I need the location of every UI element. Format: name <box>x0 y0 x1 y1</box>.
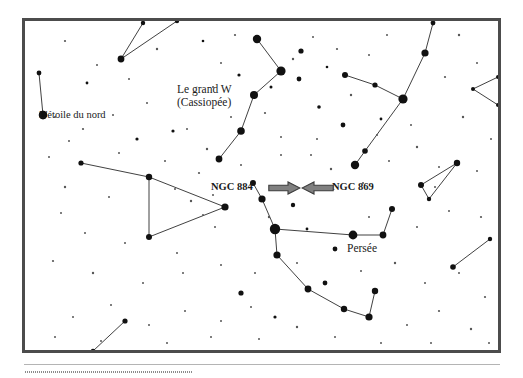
background-star <box>110 304 112 306</box>
background-star <box>264 112 266 114</box>
constellation-line <box>308 289 344 309</box>
background-star <box>186 128 188 130</box>
constellation-star <box>342 72 348 78</box>
background-star <box>210 336 212 338</box>
background-star <box>416 146 418 148</box>
background-star <box>341 123 346 128</box>
background-star <box>60 212 62 214</box>
constellation-star <box>431 21 436 25</box>
background-star <box>206 148 208 150</box>
background-star <box>54 336 56 338</box>
background-star <box>380 118 383 121</box>
background-star <box>458 34 460 36</box>
sky-map <box>25 21 498 350</box>
label-ngc884: NGC 884 <box>211 181 253 193</box>
background-star <box>268 216 270 218</box>
background-star <box>142 282 144 284</box>
background-star <box>128 78 130 80</box>
figure-page: L'étoile du nord Le grand W (Cassiopée) … <box>0 0 523 378</box>
constellation-star <box>270 224 280 234</box>
background-star <box>250 306 252 308</box>
background-star <box>298 48 303 53</box>
constellation-star <box>253 35 261 43</box>
background-star <box>135 137 138 140</box>
constellation-star <box>427 197 431 201</box>
background-star <box>310 154 312 156</box>
background-star <box>333 247 338 252</box>
background-star <box>488 342 490 344</box>
background-star <box>68 140 70 142</box>
background-star <box>86 82 89 85</box>
background-star <box>212 194 214 196</box>
background-star <box>82 128 84 130</box>
label-ngc884-text: NGC 884 <box>211 181 253 192</box>
constellation-star <box>454 160 460 166</box>
label-ngc869: NGC 869 <box>332 181 374 193</box>
background-star <box>462 116 464 118</box>
constellation-star <box>118 56 125 63</box>
background-star <box>166 342 168 344</box>
constellation-star <box>305 286 312 293</box>
constellation-star <box>175 21 179 23</box>
constellation-star <box>450 264 456 270</box>
constellation-star <box>380 232 387 239</box>
background-star <box>100 340 102 342</box>
background-star <box>312 36 314 38</box>
background-star <box>171 129 174 132</box>
constellation-star <box>122 318 127 323</box>
background-star <box>416 226 418 228</box>
constellation-star <box>421 49 428 56</box>
constellation-star <box>237 127 245 135</box>
background-star <box>72 316 74 318</box>
arrow-left-icon <box>301 181 334 199</box>
background-star <box>368 216 370 218</box>
constellation-star <box>349 231 358 240</box>
background-star <box>306 228 309 231</box>
background-star <box>230 116 232 118</box>
background-star <box>176 252 178 254</box>
background-star <box>124 242 126 244</box>
constellation-star <box>372 82 377 87</box>
background-star <box>388 160 390 162</box>
background-star <box>270 86 273 89</box>
background-star <box>48 156 50 158</box>
background-star <box>386 34 388 36</box>
background-star <box>220 62 222 64</box>
background-star <box>430 342 432 344</box>
constellation-star <box>341 306 347 312</box>
background-star <box>380 342 382 344</box>
background-star <box>394 262 396 264</box>
constellation-star <box>351 161 359 169</box>
constellation-star <box>250 91 258 99</box>
constellation-line <box>365 99 403 151</box>
constellation-line <box>81 163 149 177</box>
background-star <box>240 164 242 166</box>
background-star <box>238 290 243 295</box>
constellation-line <box>473 77 498 89</box>
background-star <box>184 310 186 312</box>
background-star <box>292 58 294 60</box>
background-star <box>476 62 478 64</box>
background-star <box>237 73 240 76</box>
background-star <box>202 40 205 43</box>
background-star <box>458 272 460 274</box>
background-star <box>406 324 408 326</box>
background-star <box>350 94 352 96</box>
footer-dotted-rule <box>25 371 193 373</box>
background-star <box>182 272 184 274</box>
constellation-line <box>344 309 369 317</box>
background-star <box>234 34 236 36</box>
background-star <box>490 138 492 140</box>
background-star <box>52 260 54 262</box>
constellation-star <box>398 94 407 103</box>
background-star <box>273 315 276 318</box>
constellation-star <box>389 206 395 212</box>
constellation-star <box>216 156 223 163</box>
constellation-line <box>383 209 392 235</box>
background-star <box>424 282 426 284</box>
background-star <box>198 172 200 174</box>
constellation-line <box>93 321 125 350</box>
background-star <box>156 48 158 50</box>
constellation-star <box>471 87 475 91</box>
background-star <box>148 324 150 326</box>
